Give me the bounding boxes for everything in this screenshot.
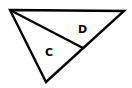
region-label-c: C: [45, 47, 53, 58]
triangle-diagram: D C: [0, 0, 132, 88]
outer-triangle: [10, 10, 124, 82]
region-label-d: D: [78, 24, 87, 35]
dividing-segment: [10, 10, 83, 48]
triangle-figure: [0, 0, 132, 88]
